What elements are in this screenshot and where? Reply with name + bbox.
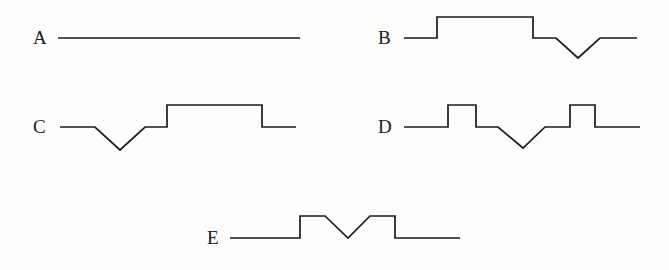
panel-d: D <box>378 105 640 148</box>
panel-b: B <box>378 17 637 58</box>
panel-label-b: B <box>378 27 391 48</box>
waveform-line-e <box>230 216 460 238</box>
waveform-line-c <box>60 105 296 150</box>
panel-a: A <box>33 27 300 48</box>
panel-label-d: D <box>378 116 392 137</box>
panel-e: E <box>207 216 460 248</box>
waveform-figure: A B C D E <box>0 0 669 270</box>
waveform-line-d <box>404 105 640 148</box>
panel-c: C <box>33 105 296 150</box>
panel-label-a: A <box>33 27 47 48</box>
waveform-line-b <box>404 17 637 58</box>
panel-label-e: E <box>207 227 219 248</box>
panel-label-c: C <box>33 116 46 137</box>
